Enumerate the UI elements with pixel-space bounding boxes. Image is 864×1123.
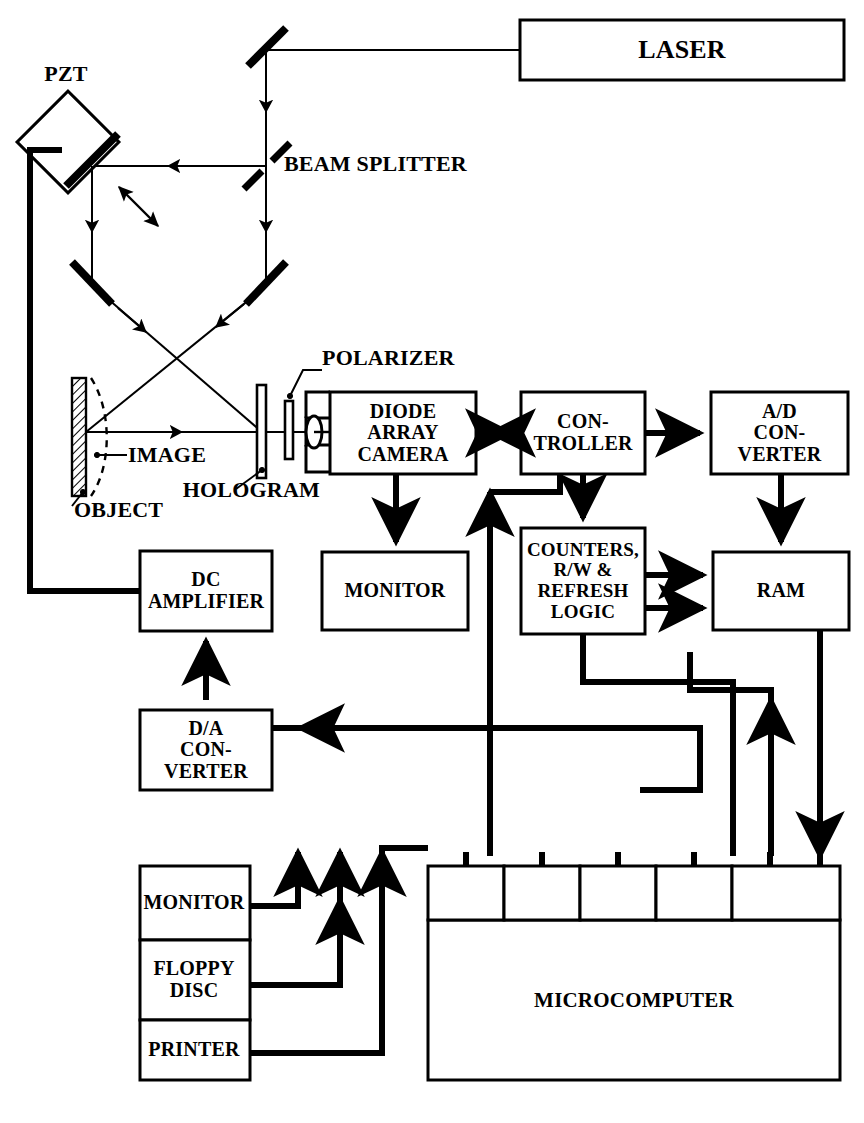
counters-logic-label: COUNTERS, R/W & REFRESH LOGIC: [521, 528, 645, 634]
image-leader-dot: [94, 452, 99, 457]
hologram-leader-dot: [259, 467, 264, 472]
da-converter-label: D/A CON- VERTER: [140, 710, 272, 790]
microcomputer-port-2: [504, 866, 580, 920]
hologram-plate-icon: [257, 385, 266, 478]
microcomputer-port-3: [580, 866, 656, 920]
link-micro-bus-riser: [640, 742, 700, 790]
port-risers: [466, 852, 820, 866]
pzt-motion-arrow: [119, 187, 158, 226]
peripheral-printer-label: PRINTER: [138, 1020, 250, 1080]
pzt-label: PZT: [28, 62, 104, 86]
polarizer-label: POLARIZER: [322, 346, 492, 370]
link-micro-to-daconverter: [300, 728, 700, 742]
image-arc-icon: [91, 378, 107, 496]
microcomputer-port-5: [732, 866, 840, 920]
wire-dcamp-to-pzt: [30, 150, 140, 591]
diode-array-camera-label: DIODE ARRAY CAMERA: [330, 392, 476, 474]
microcomputer-port-1: [428, 866, 504, 920]
object-icon: [72, 378, 86, 496]
microcomputer-port-4: [656, 866, 732, 920]
beam-arrow-diag-1: [118, 308, 146, 332]
link-monitor-to-micro: [250, 852, 298, 906]
link-controller-bottom-stub: [521, 474, 560, 492]
dc-amplifier-label: DC AMPLIFIER: [140, 551, 272, 631]
polarizer-leader-dot: [287, 393, 292, 398]
ram-label: RAM: [713, 552, 849, 630]
object-label: OBJECT: [74, 498, 204, 522]
beam-splitter-icon-lower: [244, 171, 262, 189]
diagram-canvas: LASER PZT BEAM SPLITTER POLARIZER HOLOGR…: [0, 0, 864, 1123]
controller-label: CON- TROLLER: [521, 392, 645, 474]
microcomputer-label: MICROCOMPUTER: [428, 920, 840, 1080]
beam-arrow-diag-2: [216, 304, 244, 327]
link-bus-to-micro-left-port: [382, 848, 428, 852]
beam-splitter-label: BEAM SPLITTER: [284, 152, 484, 176]
link-printer-to-micro: [250, 852, 382, 1053]
monitor-video-label: MONITOR: [322, 552, 468, 630]
peripheral-monitor-label: MONITOR: [138, 866, 250, 940]
peripheral-floppy-disc-label: FLOPPY DISC: [138, 940, 250, 1020]
link-counters-bus-down: [583, 634, 733, 856]
object-leader-dot: [80, 489, 85, 494]
ad-converter-label: A/D CON- VERTER: [711, 392, 848, 474]
polarizer-plate-icon: [285, 401, 293, 459]
image-label: IMAGE: [128, 443, 248, 467]
laser-label: LASER: [520, 20, 844, 80]
